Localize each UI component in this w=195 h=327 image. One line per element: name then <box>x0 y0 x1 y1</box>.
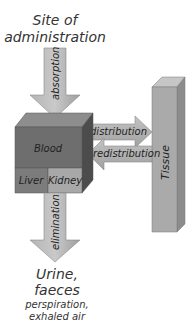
output-line4: exhaled air <box>29 311 86 322</box>
output-line1: Urine, <box>36 266 78 282</box>
site-of-administration-label: Site of administration <box>4 12 106 45</box>
tissue-label: Tissue <box>159 145 172 180</box>
blood-label: Blood <box>34 143 63 154</box>
absorption-label: absorption <box>50 47 61 100</box>
liver-label: Liver <box>19 175 44 186</box>
kidney-label: Kidney <box>48 175 83 186</box>
elimination-arrow: elimination <box>30 193 80 262</box>
distribution-label: distribution <box>90 126 147 137</box>
output-line2: faeces <box>34 282 80 298</box>
blood-top-face <box>15 113 93 127</box>
source-label-line2: administration <box>4 29 106 45</box>
redistribution-label: redistribution <box>93 148 160 159</box>
output-line3: perspiration, <box>24 299 89 310</box>
redistribution-arrow: redistribution <box>88 138 160 170</box>
pharmacokinetics-diagram: Site of administration absorption Tissue… <box>0 0 195 327</box>
blood-side-face <box>82 113 93 193</box>
source-label-line1: Site of <box>33 12 80 28</box>
tissue-side-face <box>177 77 185 232</box>
absorption-arrow: absorption <box>30 47 80 118</box>
distribution-arrow: distribution <box>88 116 152 148</box>
blood-compartment: Blood Liver Kidney <box>15 113 93 193</box>
elimination-label: elimination <box>50 194 61 250</box>
elimination-routes-label: Urine, faeces perspiration, exhaled air <box>24 266 89 322</box>
